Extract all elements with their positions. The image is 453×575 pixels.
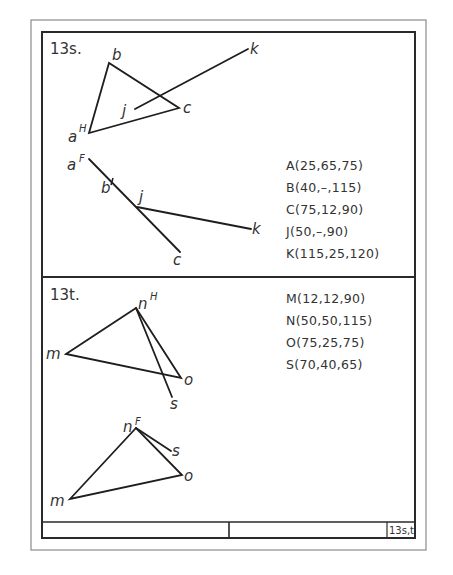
label-m: m bbox=[46, 345, 61, 363]
outer-frame bbox=[31, 20, 426, 550]
coord-m: M(12,12,90) bbox=[286, 291, 366, 306]
label-s: s bbox=[172, 442, 180, 460]
label-k: k bbox=[252, 220, 262, 238]
coord-o: O(75,25,75) bbox=[286, 335, 365, 350]
plane-abc-top bbox=[89, 63, 179, 133]
coord-k: K(115,25,120) bbox=[286, 246, 379, 261]
problem-number: 13t. bbox=[50, 286, 80, 304]
label-o: o bbox=[184, 371, 193, 389]
coordinate-list-13s: A(25,65,75) B(40,–,115) C(75,12,90) J(50… bbox=[285, 158, 379, 261]
label-b: b bbox=[101, 179, 111, 197]
top-view-13s: a H b c j k bbox=[68, 40, 260, 146]
front-view-13t: m n F s o bbox=[50, 416, 193, 510]
label-k: k bbox=[250, 40, 260, 58]
label-m: m bbox=[50, 492, 65, 510]
label-n-sup: H bbox=[150, 291, 158, 302]
coord-b: B(40,–,115) bbox=[286, 180, 362, 195]
problem-number: 13s. bbox=[50, 40, 82, 58]
problem-13t: 13t. m n H o s m n F s o M(12,12,90) N(5… bbox=[46, 286, 372, 510]
label-c: c bbox=[183, 99, 192, 117]
sheet-tag: 13s,t bbox=[389, 525, 414, 536]
label-j: j bbox=[137, 188, 144, 206]
plane-mno-front bbox=[70, 428, 182, 499]
front-view-13s: a F b j c k bbox=[67, 153, 262, 269]
label-n: n bbox=[123, 418, 133, 436]
line-jk-top bbox=[135, 49, 248, 109]
label-o: o bbox=[184, 467, 193, 485]
coord-j: J(50,–,90) bbox=[285, 224, 348, 239]
label-n: n bbox=[138, 295, 148, 313]
label-a-sup: H bbox=[79, 123, 87, 134]
plane-mno-top bbox=[66, 308, 181, 378]
label-b: b bbox=[112, 46, 122, 64]
label-n-sup: F bbox=[135, 416, 141, 427]
label-a: a bbox=[68, 128, 77, 146]
drawing-sheet: 13s,t 13s. a H b c j k a F b j c k bbox=[0, 0, 453, 575]
title-block: 13s,t bbox=[42, 522, 415, 538]
coordinate-list-13t: M(12,12,90) N(50,50,115) O(75,25,75) S(7… bbox=[286, 291, 372, 372]
label-s: s bbox=[170, 395, 178, 413]
label-a: a bbox=[67, 156, 76, 174]
top-view-13t: m n H o s bbox=[46, 291, 193, 413]
coord-n: N(50,50,115) bbox=[286, 313, 372, 328]
label-c: c bbox=[173, 251, 182, 269]
label-a-sup: F bbox=[79, 153, 85, 164]
inner-frame bbox=[42, 32, 415, 538]
plane-ac-front bbox=[89, 159, 180, 252]
problem-13s: 13s. a H b c j k a F b j c k A(25,65,75) bbox=[50, 40, 379, 269]
coord-a: A(25,65,75) bbox=[286, 158, 363, 173]
line-ns-top bbox=[136, 308, 172, 397]
line-ns-front bbox=[136, 428, 171, 451]
coord-s: S(70,40,65) bbox=[286, 357, 363, 372]
label-j: j bbox=[120, 102, 127, 120]
coord-c: C(75,12,90) bbox=[286, 202, 363, 217]
